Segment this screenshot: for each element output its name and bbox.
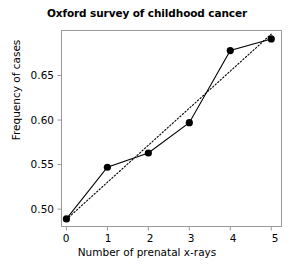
chart-figure: Oxford survey of childhood cancer Freque… [0, 0, 294, 264]
y-axis-ticks [58, 75, 62, 209]
data-point-1 [104, 164, 111, 171]
trend-line-dotted [66, 34, 271, 219]
x-axis-ticks [66, 227, 271, 231]
data-point-3 [186, 119, 193, 126]
data-point-5 [268, 35, 275, 42]
data-point-0 [63, 215, 70, 222]
data-point-2 [145, 149, 152, 156]
plot-area [0, 0, 294, 264]
data-point-4 [227, 47, 234, 54]
plot-frame [62, 31, 282, 227]
